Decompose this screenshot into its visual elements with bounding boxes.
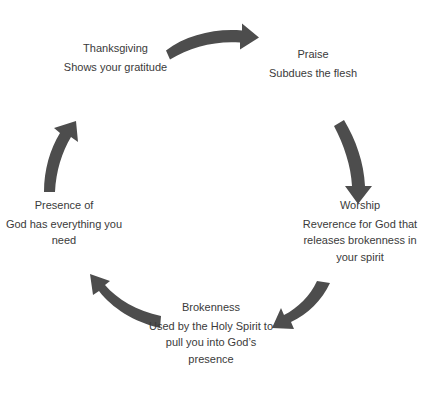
curved-arrow-right-icon [166,24,259,60]
node-label-thanksgiving: Thanksgiving Shows your gratitude [58,40,173,75]
curved-arrow-up-icon [44,121,78,192]
curved-arrow-down-left-icon [272,281,330,329]
node-title-presence: Presence of [5,197,123,214]
node-description-praise: Subdues the flesh [258,65,368,82]
node-title-worship: Worship [300,197,420,214]
node-label-brokenness: Brokenness Used by the Holy Spirit to pu… [146,299,276,367]
node-description-brokenness: Used by the Holy Spirit to pull you into… [146,318,276,368]
node-title-brokenness: Brokenness [146,299,276,316]
node-label-worship: Worship Reverence for God that releases … [300,197,420,265]
node-description-worship: Reverence for God that releases brokenne… [300,216,420,266]
node-label-praise: Praise Subdues the flesh [258,46,368,81]
node-description-presence: God has everything you need [5,216,123,249]
curved-arrow-down-icon [334,120,372,204]
cycle-diagram: Thanksgiving Shows your gratitude Praise… [0,0,424,418]
node-title-praise: Praise [258,46,368,63]
node-label-presence: Presence of God has everything you need [5,197,123,249]
node-title-thanksgiving: Thanksgiving [58,40,173,57]
node-description-thanksgiving: Shows your gratitude [58,59,173,76]
